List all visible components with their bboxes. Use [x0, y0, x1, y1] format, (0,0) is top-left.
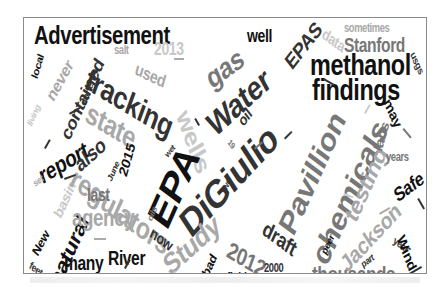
word-sometimes: sometimes — [344, 22, 389, 34]
faint-caption — [30, 277, 420, 283]
word-usgs: usgs — [409, 50, 426, 76]
word-safe: Safe — [391, 168, 426, 205]
word-well: well — [247, 27, 272, 45]
word-many: many — [64, 253, 103, 273]
word-last: last — [87, 186, 110, 204]
word-living: living — [26, 103, 42, 128]
small-word-mark — [94, 238, 106, 240]
word-bad: bad — [200, 252, 219, 274]
small-word-mark — [417, 198, 425, 209]
word-2013: 2013 — [154, 40, 184, 58]
small-word-mark — [174, 58, 184, 60]
word-2000: 2000 — [264, 262, 283, 274]
small-word-mark — [44, 139, 51, 149]
small-word-mark — [402, 128, 411, 138]
word-agency: agency — [72, 206, 134, 230]
word-salt: salt — [114, 44, 129, 56]
word-local: local — [30, 53, 45, 80]
word-cloud-frame: AdvertisementgaswellEPASdatasometimesSta… — [23, 17, 427, 274]
word-years: years — [386, 151, 409, 163]
word-thousands: thousands — [312, 264, 395, 274]
word-feet: feet — [28, 260, 44, 274]
word-used: used — [133, 60, 167, 91]
small-word-mark — [284, 131, 292, 139]
word-wind: Wind — [395, 233, 418, 273]
word-fluid: fluid — [227, 270, 246, 274]
word-new: New — [30, 228, 51, 258]
word-never: never — [44, 57, 76, 105]
word-advertisement: Advertisement — [34, 22, 170, 48]
